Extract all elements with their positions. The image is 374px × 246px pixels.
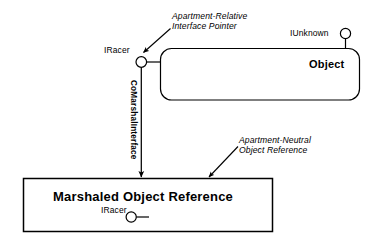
- comarshal-interface-label: CoMarshalInterface: [128, 80, 138, 160]
- iracer-bottom-lollipop-icon: [126, 212, 136, 222]
- object-interface-label-iracer: IRacer: [104, 45, 130, 55]
- object-box: [161, 49, 360, 101]
- marshaled-object-reference-title: Marshaled Object Reference: [53, 189, 233, 204]
- leader-apartment-neutral: [209, 147, 238, 178]
- marshaled-object-reference-box: [24, 179, 273, 232]
- diagram-canvas: Apartment-Relative Interface Pointer Apa…: [0, 0, 374, 246]
- annotation-apartment-neutral-line2: Object Reference: [239, 145, 311, 155]
- object-interface-label-iunknown: IUnknown: [290, 28, 329, 38]
- iunknown-lollipop-icon: [340, 28, 350, 38]
- annotation-apartment-relative-line2: Interface Pointer: [172, 21, 247, 31]
- leader-apartment-relative: [144, 29, 171, 53]
- annotation-apartment-relative: Apartment-Relative Interface Pointer: [172, 11, 247, 31]
- annotation-apartment-neutral-line1: Apartment-Neutral: [239, 135, 311, 145]
- marshaled-interface-label-iracer: IRacer: [101, 205, 127, 215]
- iracer-top-lollipop-icon: [136, 57, 147, 68]
- annotation-apartment-relative-line1: Apartment-Relative: [172, 11, 247, 21]
- object-box-title: Object: [309, 58, 344, 71]
- annotation-apartment-neutral: Apartment-Neutral Object Reference: [239, 135, 311, 155]
